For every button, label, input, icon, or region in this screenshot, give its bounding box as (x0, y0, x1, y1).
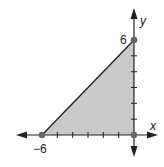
x-axis-left-arrow-icon (16, 132, 27, 139)
y-axis-up-arrow-icon (131, 8, 138, 19)
x-tick-label: −6 (33, 142, 47, 156)
y-tick-label: 6 (120, 33, 127, 47)
point-neg6-0 (39, 132, 46, 139)
graph: −6 6 x y (0, 0, 164, 167)
y-axis-label: y (139, 14, 147, 28)
x-axis-label: x (149, 119, 157, 133)
point-origin (131, 132, 138, 139)
y-axis-down-arrow-icon (131, 146, 138, 157)
point-0-6 (131, 37, 138, 44)
